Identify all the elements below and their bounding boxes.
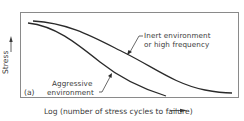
x-axis-label: Log (number of stress cycles to failure) xyxy=(44,107,193,116)
inert-arrowhead-icon xyxy=(127,50,132,55)
y-axis-arrow-icon xyxy=(9,36,12,42)
aggressive-leader-line xyxy=(99,77,110,92)
diagram-canvas xyxy=(0,0,244,121)
stress-cycles-diagram: Inert environment or high frequency Aggr… xyxy=(0,0,244,121)
aggressive-label-line1: Aggressive xyxy=(52,80,92,88)
panel-label: (a) xyxy=(24,88,35,97)
inert-leader-line xyxy=(130,36,143,52)
inert-label-line2: or high frequency xyxy=(144,41,209,49)
inert-label-line1: Inert environment xyxy=(144,32,211,40)
aggressive-label-line2: environment xyxy=(47,89,94,97)
y-axis-label: Stress xyxy=(1,51,10,74)
